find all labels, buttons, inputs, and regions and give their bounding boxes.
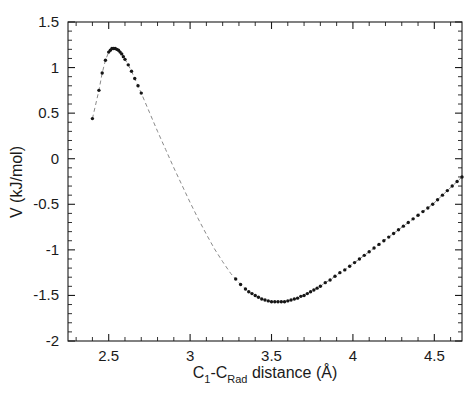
- data-point: [273, 300, 276, 303]
- data-point: [296, 296, 299, 299]
- data-point: [460, 175, 463, 178]
- potential-energy-figure: 2.533.544.5 1.510.50-0.5-1-1.5-2 V (kJ/m…: [0, 0, 476, 400]
- y-axis-tick-labels: 1.510.50-0.5-1-1.5-2: [33, 13, 59, 349]
- y-tick-label: -1: [46, 241, 59, 258]
- x-axis-tick-labels: 2.533.544.5: [98, 347, 444, 364]
- data-point: [387, 235, 390, 238]
- data-point: [368, 250, 371, 253]
- y-tick-label: 1.5: [38, 13, 59, 30]
- data-point: [315, 286, 318, 289]
- data-point: [319, 285, 322, 288]
- data-point: [299, 295, 302, 298]
- data-point: [91, 117, 94, 120]
- potential-curve-line: [92, 48, 462, 301]
- data-point: [283, 300, 286, 303]
- data-point: [441, 193, 444, 196]
- x-axis-title-dash-c: -C: [210, 364, 227, 381]
- data-point: [324, 281, 327, 284]
- data-point: [280, 300, 283, 303]
- data-point: [455, 180, 458, 183]
- data-point: [250, 292, 253, 295]
- y-tick-label: -0.5: [33, 195, 59, 212]
- data-point: [293, 297, 296, 300]
- x-tick-label: 3.5: [261, 347, 282, 364]
- data-point: [136, 84, 139, 87]
- data-point: [263, 298, 266, 301]
- data-point: [397, 228, 400, 231]
- data-point: [333, 275, 336, 278]
- data-point: [312, 288, 315, 291]
- data-point: [239, 283, 242, 286]
- data-point: [309, 290, 312, 293]
- data-point: [392, 232, 395, 235]
- data-point: [140, 91, 143, 94]
- x-axis-title-c: C: [193, 364, 205, 381]
- data-point: [421, 210, 424, 213]
- data-point: [276, 300, 279, 303]
- y-tick-label: -1.5: [33, 286, 59, 303]
- x-axis-title-sub-rad: Rad: [227, 373, 247, 385]
- y-tick-label: -2: [46, 332, 59, 349]
- data-point: [254, 294, 257, 297]
- data-point: [133, 77, 136, 80]
- data-point: [353, 261, 356, 264]
- data-point: [97, 89, 100, 92]
- data-point: [407, 221, 410, 224]
- data-point: [411, 217, 414, 220]
- data-point: [451, 184, 454, 187]
- data-point: [244, 287, 247, 290]
- data-point: [348, 265, 351, 268]
- data-point: [446, 189, 449, 192]
- data-point: [426, 206, 429, 209]
- data-point: [286, 299, 289, 302]
- data-point: [127, 63, 130, 66]
- data-point: [431, 203, 434, 206]
- data-point: [416, 214, 419, 217]
- data-point: [306, 292, 309, 295]
- data-point: [123, 58, 126, 61]
- plot-canvas: 2.533.544.5 1.510.50-0.5-1-1.5-2 V (kJ/m…: [0, 0, 476, 400]
- data-point: [377, 243, 380, 246]
- data-point: [247, 290, 250, 293]
- data-point: [382, 239, 385, 242]
- data-point: [338, 271, 341, 274]
- x-tick-label: 4.5: [424, 347, 445, 364]
- y-tick-label: 0: [51, 150, 59, 167]
- axis-tick-marks: [68, 22, 462, 341]
- x-axis-title-distance: distance (Å): [247, 363, 337, 381]
- y-tick-label: 1: [51, 59, 59, 76]
- plot-frame: [68, 22, 462, 341]
- x-tick-label: 2.5: [98, 347, 119, 364]
- data-point: [436, 198, 439, 201]
- data-point: [130, 70, 133, 73]
- x-tick-label: 3: [186, 347, 194, 364]
- potential-curve-markers: [91, 47, 464, 304]
- data-point: [260, 297, 263, 300]
- data-point: [289, 298, 292, 301]
- data-point: [328, 278, 331, 281]
- data-point: [358, 257, 361, 260]
- data-point: [100, 71, 103, 74]
- data-point: [372, 246, 375, 249]
- data-point: [267, 299, 270, 302]
- x-tick-label: 4: [349, 347, 357, 364]
- data-point: [257, 296, 260, 299]
- data-point: [302, 294, 305, 297]
- x-axis-title: C1-CRad distance (Å): [193, 363, 338, 385]
- data-point: [402, 224, 405, 227]
- data-point: [363, 254, 366, 257]
- data-point: [234, 277, 237, 280]
- data-point: [343, 268, 346, 271]
- data-point: [104, 59, 107, 62]
- data-point: [270, 300, 273, 303]
- y-axis-title: V (kJ/mol): [8, 146, 25, 218]
- y-tick-label: 0.5: [38, 104, 59, 121]
